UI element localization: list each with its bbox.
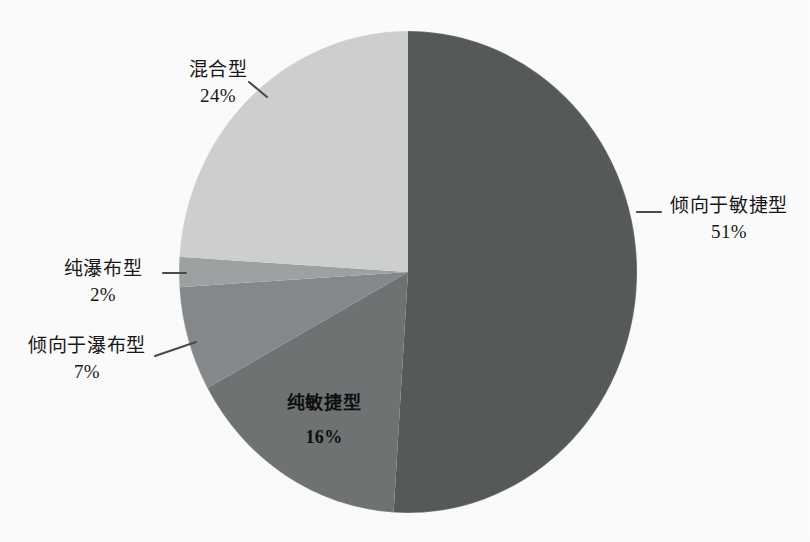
callout-toward-waterfall-category: 倾向于瀑布型 <box>22 333 152 359</box>
callout-mixed-value: 24% <box>163 83 273 109</box>
callout-pure-agile-category: 纯敏捷型 <box>264 386 384 420</box>
callout-toward-agile-value: 51% <box>663 219 795 245</box>
pie-chart-page: 混合型 24% 纯瀑布型 2% 倾向于瀑布型 7% 倾向于敏捷型 51% 纯敏捷… <box>0 0 810 542</box>
callout-toward-agile[interactable]: 倾向于敏捷型 51% <box>663 193 795 245</box>
callout-pure-agile-value: 16% <box>264 420 384 454</box>
pie-chart: 混合型 24% 纯瀑布型 2% 倾向于瀑布型 7% 倾向于敏捷型 51% 纯敏捷… <box>0 0 810 542</box>
callout-pure-waterfall-value: 2% <box>48 282 158 308</box>
callout-pure-agile[interactable]: 纯敏捷型 16% <box>264 386 384 454</box>
pie-slice-toward-agile[interactable] <box>394 31 637 513</box>
callout-toward-agile-category: 倾向于敏捷型 <box>663 193 795 219</box>
leader-line-toward-waterfall <box>155 342 196 356</box>
callout-toward-waterfall-value: 7% <box>22 359 152 385</box>
callout-pure-waterfall-category: 纯瀑布型 <box>48 256 158 282</box>
callout-mixed-category: 混合型 <box>163 57 273 83</box>
callout-mixed[interactable]: 混合型 24% <box>163 57 273 109</box>
callout-toward-waterfall[interactable]: 倾向于瀑布型 7% <box>22 333 152 385</box>
callout-pure-waterfall[interactable]: 纯瀑布型 2% <box>48 256 158 308</box>
